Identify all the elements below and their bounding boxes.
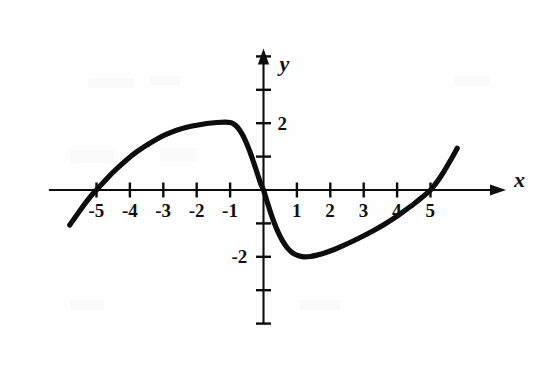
x-tick-label: 5 bbox=[426, 201, 436, 220]
x-tick-label: -5 bbox=[89, 201, 105, 220]
y-axis-label: y bbox=[280, 53, 290, 75]
x-tick-label: 4 bbox=[392, 201, 402, 220]
x-tick-label: -4 bbox=[122, 201, 138, 220]
axes-group bbox=[50, 48, 506, 323]
y-tick-label: 2 bbox=[278, 114, 288, 133]
x-tick-label: -1 bbox=[222, 201, 238, 220]
x-tick-label: -2 bbox=[189, 201, 205, 220]
x-axis-label: x bbox=[514, 169, 525, 191]
x-tick-label: -3 bbox=[155, 201, 171, 220]
x-tick-label: 2 bbox=[325, 201, 335, 220]
figure-canvas: -5-4-3-2-1123452-2 x y bbox=[0, 0, 556, 365]
graph-plot bbox=[0, 0, 556, 365]
x-tick-label: 1 bbox=[292, 201, 302, 220]
y-tick-label: -2 bbox=[232, 247, 248, 266]
x-tick-label: 3 bbox=[359, 201, 369, 220]
x-axis-arrow-icon bbox=[490, 184, 506, 195]
